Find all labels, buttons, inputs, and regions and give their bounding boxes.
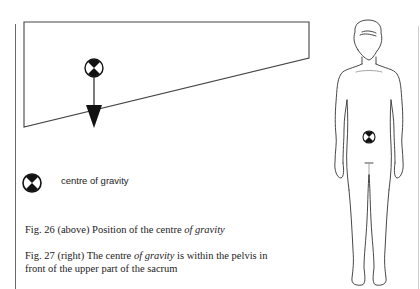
torso-left: [347, 100, 349, 190]
figure-27-human-outline: [320, 0, 420, 289]
caption-italic-text: of gravity: [184, 224, 225, 235]
caption-text: front of the upper part of the sacrum: [25, 263, 178, 274]
legend-label: centre of gravity: [61, 175, 129, 186]
caption-italic-text: of gravity: [134, 250, 175, 261]
head-outline: [354, 20, 382, 60]
left-leg-outline: [349, 175, 369, 285]
tilted-block-shape: [24, 22, 309, 127]
figure-26-caption: Fig. 26 (above) Position of the centre o…: [25, 223, 225, 236]
caption-text: Fig. 26 (above) Position of the centre: [25, 224, 184, 235]
right-leg-outline: [369, 175, 389, 285]
book-page: centre of gravity Fig. 26 (above) Positi…: [0, 0, 420, 289]
centre-of-gravity-icon: [85, 59, 103, 77]
caption-text: is within the pelvis in: [174, 250, 267, 261]
figure-27-caption: Fig. 27 (right) The centre of gravity is…: [25, 249, 325, 275]
figure-26-diagram: [0, 0, 320, 210]
centre-of-gravity-icon: [363, 131, 375, 143]
left-arm-outline: [335, 64, 362, 178]
legend-centre-of-gravity-icon: [23, 174, 41, 192]
caption-text: Fig. 27 (right) The centre: [25, 250, 134, 261]
torso-right: [389, 100, 391, 190]
right-arm-outline: [376, 64, 403, 178]
